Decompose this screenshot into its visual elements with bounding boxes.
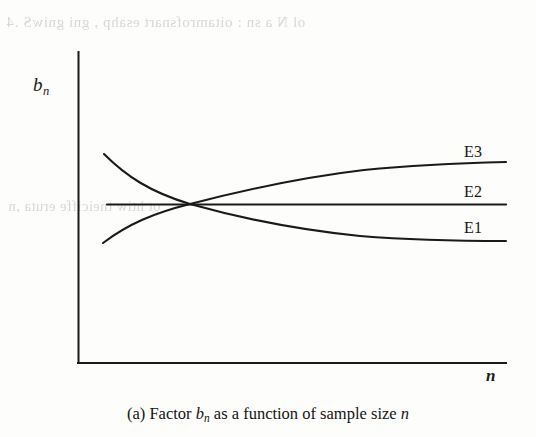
figure-caption: (a) Factor bn as a function of sample si…	[0, 404, 536, 424]
curve-e3	[103, 162, 506, 243]
caption-middle: as a function of sample size	[214, 404, 397, 423]
plot-area	[0, 0, 536, 437]
caption-symbol: b	[196, 404, 204, 423]
caption-symbol-subscript: n	[204, 412, 210, 424]
caption-prefix: (a) Factor	[127, 404, 192, 423]
curve-e1	[104, 154, 506, 241]
x-axis-label: n	[486, 366, 495, 386]
curve-label-e3: E3	[464, 143, 482, 161]
curve-label-e2: E2	[464, 183, 482, 201]
y-axis-label: bn	[33, 74, 49, 99]
y-axis-label-subscript: n	[43, 84, 49, 98]
curve-label-e1: E1	[464, 219, 482, 237]
y-axis-label-symbol: b	[33, 74, 43, 95]
caption-variable: n	[401, 404, 409, 423]
figure-container: ol N a sn : oitamrofsnart esahp , gni gn…	[0, 0, 536, 437]
